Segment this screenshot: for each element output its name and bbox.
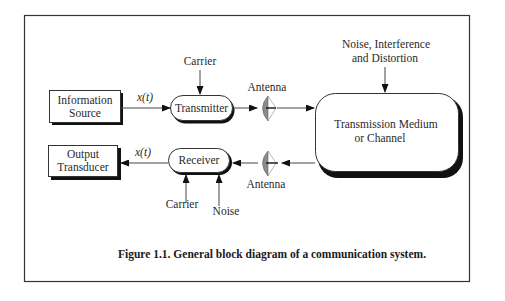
information-source-block: Information Source (50, 91, 124, 126)
channel-line1: Transmission Medium (334, 118, 437, 130)
communication-block-diagram: Information Source x(t) Transmitter Carr… (0, 0, 505, 301)
carrier-rx-label: Carrier (166, 198, 199, 210)
antenna-tx-icon (263, 96, 277, 121)
antenna-rx-icon (263, 151, 279, 176)
output-transducer-line1: Output (67, 148, 100, 161)
information-source-line1: Information (58, 94, 113, 106)
antenna-tx-label: Antenna (248, 81, 287, 93)
output-transducer-block: Output Transducer (49, 146, 122, 181)
receiver-block: Receiver (169, 149, 233, 176)
noise-interference-line2: and Distortion (352, 52, 418, 64)
channel-line2: or Channel (355, 132, 406, 144)
signal-label-tx: x(t) (136, 91, 153, 104)
noise-rx-label: Noise (213, 205, 240, 217)
figure-caption: Figure 1.1. General block diagram of a c… (118, 248, 426, 261)
carrier-tx-label: Carrier (184, 55, 217, 67)
transmitter-label: Transmitter (175, 102, 228, 114)
channel-block: Transmission Medium or Channel (316, 94, 464, 179)
receiver-label: Receiver (179, 154, 220, 166)
transmitter-block: Transmitter (171, 96, 235, 124)
signal-label-rx: x(t) (134, 146, 151, 159)
information-source-line2: Source (69, 107, 101, 119)
noise-interference-line1: Noise, Interference (342, 38, 430, 51)
antenna-rx-label: Antenna (247, 178, 286, 190)
output-transducer-line2: Transducer (57, 161, 108, 173)
